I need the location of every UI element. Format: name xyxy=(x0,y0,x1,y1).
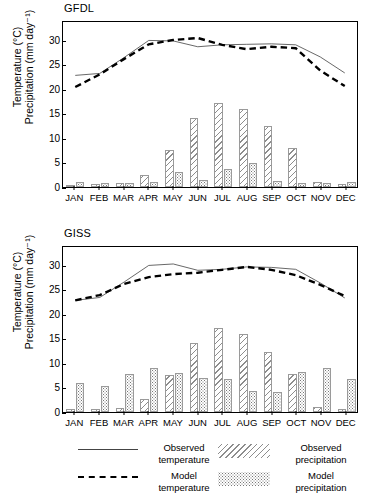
x-tick-label: SEP xyxy=(262,417,281,428)
panel-gfdl: GFDL Temperature (°C) Precipitation (mm … xyxy=(0,0,372,215)
x-tick-mark xyxy=(123,411,124,415)
x-tick-mark xyxy=(197,186,198,190)
x-tick-mark xyxy=(321,186,322,190)
y-tick-label: 5 xyxy=(26,157,60,168)
y-tick-label: 25 xyxy=(26,284,60,295)
x-tick-label: DEC xyxy=(336,417,356,428)
y-tick-mark xyxy=(62,290,66,291)
x-tick-mark xyxy=(321,411,322,415)
panel-title-gfdl: GFDL xyxy=(64,2,94,14)
x-tick-label: JAN xyxy=(65,417,83,428)
legend-label-observed-precipitation: Observed precipitation xyxy=(276,442,366,465)
x-tick-label: MAY xyxy=(163,192,183,203)
x-tick-label: MAR xyxy=(113,192,134,203)
y-tick-mark xyxy=(62,266,66,267)
y-tick-mark xyxy=(62,315,66,316)
x-tick-label: FEB xyxy=(90,417,108,428)
x-tick-mark xyxy=(222,411,223,415)
panel-giss: GISS Temperature (°C) Precipitation (mm … xyxy=(0,225,372,440)
x-tick-label: MAR xyxy=(113,417,134,428)
y-tick-label: 10 xyxy=(26,133,60,144)
y-tick-label: 20 xyxy=(26,309,60,320)
x-tick-label: SEP xyxy=(262,192,281,203)
x-tick-mark xyxy=(222,186,223,190)
hatch-swatch-icon xyxy=(218,444,270,458)
y-tick-mark xyxy=(62,139,66,140)
y-tick-label: 0 xyxy=(26,182,60,193)
x-tick-mark xyxy=(123,186,124,190)
y-tick-label: 15 xyxy=(26,108,60,119)
legend-item-observed-temperature: Observed temperature xyxy=(78,440,208,468)
legend-label-model-temperature: Model temperature xyxy=(144,470,224,493)
y-tick-label: 15 xyxy=(26,333,60,344)
x-tick-mark xyxy=(247,186,248,190)
x-tick-mark xyxy=(173,186,174,190)
x-tick-mark xyxy=(296,186,297,190)
x-tick-mark xyxy=(345,186,346,190)
x-tick-mark xyxy=(247,411,248,415)
x-tick-mark xyxy=(148,186,149,190)
x-tick-label: JUL xyxy=(214,417,231,428)
y-tick-label: 30 xyxy=(26,35,60,46)
dotted-swatch-icon xyxy=(218,472,270,486)
y-tick-label: 10 xyxy=(26,358,60,369)
x-tick-mark xyxy=(197,411,198,415)
y-tick-mark xyxy=(62,388,66,389)
x-tick-label: OCT xyxy=(286,192,306,203)
y-tick-mark xyxy=(62,114,66,115)
x-tick-label: APR xyxy=(139,417,159,428)
panel-title-giss: GISS xyxy=(64,227,91,239)
y-tick-mark xyxy=(62,188,66,189)
x-tick-label: JUN xyxy=(188,192,206,203)
x-tick-mark xyxy=(74,186,75,190)
x-tick-mark xyxy=(345,411,346,415)
observed-temperature-line xyxy=(75,264,345,300)
y-tick-label: 0 xyxy=(26,407,60,418)
figure-legend: Observed temperature Observed precipitat… xyxy=(0,440,372,500)
x-tick-label: MAY xyxy=(163,417,183,428)
x-tick-label: APR xyxy=(139,192,159,203)
x-tick-label: DEC xyxy=(336,192,356,203)
x-tick-mark xyxy=(99,186,100,190)
y-tick-label: 20 xyxy=(26,84,60,95)
legend-label-model-precipitation: Model precipitation xyxy=(276,470,366,493)
y-tick-labels-giss: 051015202530 xyxy=(20,246,60,413)
x-tick-mark xyxy=(271,186,272,190)
x-tick-mark xyxy=(296,411,297,415)
dashed-line-icon xyxy=(78,476,138,478)
x-tick-label: FEB xyxy=(90,192,108,203)
x-tick-mark xyxy=(74,411,75,415)
x-tick-label: NOV xyxy=(311,417,332,428)
legend-item-model-precipitation: Model precipitation xyxy=(218,468,368,496)
legend-item-observed-precipitation: Observed precipitation xyxy=(218,440,368,468)
y-tick-labels-gfdl: 051015202530 xyxy=(20,21,60,188)
temperature-lines-gfdl xyxy=(63,22,357,187)
y-tick-mark xyxy=(62,65,66,66)
x-tick-mark xyxy=(99,411,100,415)
x-tick-mark xyxy=(148,411,149,415)
x-tick-label: AUG xyxy=(237,417,258,428)
legend-label-observed-temperature: Observed temperature xyxy=(144,442,224,465)
plot-area-giss xyxy=(62,246,358,413)
x-tick-label: NOV xyxy=(311,192,332,203)
x-tick-labels-gfdl: JANFEBMARAPRMAYJUNJULAUGSEPOCTNOVDEC xyxy=(62,190,358,208)
solid-line-icon xyxy=(78,449,138,450)
plot-area-gfdl xyxy=(62,21,358,188)
y-tick-label: 5 xyxy=(26,382,60,393)
temperature-lines-giss xyxy=(63,247,357,412)
y-tick-label: 30 xyxy=(26,260,60,271)
legend-item-model-temperature: Model temperature xyxy=(78,468,208,496)
observed-temperature-line xyxy=(75,40,345,75)
x-tick-label: JUN xyxy=(188,417,206,428)
x-tick-labels-giss: JANFEBMARAPRMAYJUNJULAUGSEPOCTNOVDEC xyxy=(62,415,358,433)
y-tick-label: 25 xyxy=(26,59,60,70)
model-temperature-line xyxy=(75,267,345,300)
y-tick-mark xyxy=(62,339,66,340)
y-tick-mark xyxy=(62,163,66,164)
x-tick-label: JUL xyxy=(214,192,231,203)
y-tick-mark xyxy=(62,413,66,414)
legend-row-1: Observed temperature Observed precipitat… xyxy=(0,440,372,468)
x-tick-label: OCT xyxy=(286,417,306,428)
x-tick-label: AUG xyxy=(237,192,258,203)
y-tick-mark xyxy=(62,364,66,365)
